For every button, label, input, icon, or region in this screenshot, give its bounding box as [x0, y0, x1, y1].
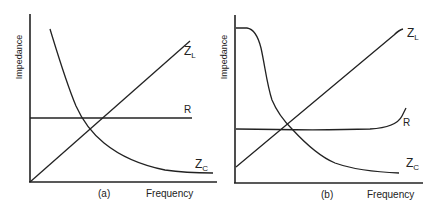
panel-a-r-label: R — [184, 104, 191, 115]
panel-a-zl-curve — [30, 41, 190, 182]
panel-b: ZL R ZC Impedance (b) Frequency — [219, 15, 423, 200]
panel-b-y-label: Impedance — [219, 35, 229, 80]
panel-b-zl-label: ZL — [407, 26, 419, 42]
panel-b-r-curve — [236, 108, 406, 130]
impedance-frequency-diagram: ZL R ZC Impedance (a) Frequency ZL R ZC … — [0, 0, 440, 209]
panel-a-zc-label: ZC — [195, 157, 208, 173]
panel-a-y-label: Impedance — [14, 35, 24, 80]
panel-b-zc-label: ZC — [406, 156, 419, 172]
panel-a: ZL R ZC Impedance (a) Frequency — [14, 14, 217, 199]
panel-b-r-label: R — [403, 117, 410, 128]
panel-b-zc-curve — [236, 28, 399, 173]
panel-a-caption: (a) — [98, 188, 110, 199]
panel-b-caption: (b) — [321, 189, 333, 200]
panel-b-x-label: Frequency — [367, 189, 414, 200]
panel-a-zl-label: ZL — [184, 44, 196, 60]
panel-a-x-label: Frequency — [146, 188, 193, 199]
